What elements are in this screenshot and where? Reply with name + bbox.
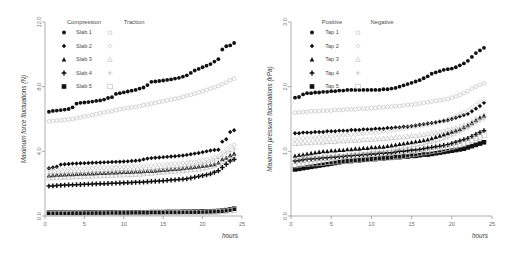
y-axis-title: Maximum force fluctuations (N): [20, 75, 28, 163]
data-point: [365, 146, 370, 150]
data-point: [321, 109, 325, 113]
legend-marker-filled: [310, 84, 315, 89]
legend-marker-open: [356, 31, 360, 35]
data-point: [188, 163, 193, 168]
data-point: [381, 136, 386, 140]
legend: PositiveNegativeTap 1Tap 2Tap 3Tap 4Tap …: [310, 19, 394, 89]
data-point: [337, 108, 341, 112]
data-point: [325, 149, 330, 153]
data-point: [381, 144, 386, 148]
data-point: [90, 161, 94, 165]
data-point: [145, 156, 149, 160]
data-point: [173, 77, 177, 81]
data-point: [325, 90, 329, 94]
data-point: [181, 95, 185, 99]
legend-label: Tap 1: [325, 29, 339, 35]
data-point: [110, 109, 114, 113]
plot-right: 0.01.02.03.00510152025Maximum pressure f…: [254, 0, 508, 254]
data-point: [309, 130, 313, 134]
data-point: [321, 90, 325, 94]
x-tick-label: 5: [83, 221, 86, 227]
data-point: [397, 135, 402, 139]
data-point: [181, 153, 185, 157]
data-point: [297, 95, 301, 99]
data-point: [86, 161, 90, 165]
data-point: [200, 173, 205, 178]
data-point: [149, 80, 153, 84]
data-point: [425, 141, 430, 146]
data-point: [365, 107, 369, 111]
data-point: [429, 136, 434, 140]
data-point: [337, 89, 341, 93]
data-point: [177, 76, 181, 80]
data-point: [126, 159, 130, 163]
data-point: [86, 100, 90, 104]
data-point: [59, 162, 63, 166]
data-point: [361, 88, 365, 92]
data-point: [309, 109, 313, 113]
data-point: [138, 87, 142, 91]
data-point: [454, 94, 458, 98]
data-point: [114, 108, 118, 112]
data-point: [397, 142, 402, 146]
data-point: [394, 86, 398, 90]
data-point: [181, 75, 185, 79]
legend-marker-filled: [310, 71, 315, 76]
data-point: [345, 88, 349, 92]
data-point: [370, 88, 374, 92]
data-point: [301, 141, 306, 145]
data-point: [406, 82, 410, 86]
x-tick-label: 20: [449, 221, 455, 227]
data-point: [385, 126, 389, 130]
x-tick-label: 5: [330, 221, 333, 227]
data-point: [470, 55, 474, 59]
data-point: [317, 140, 322, 144]
data-point: [305, 152, 310, 156]
data-point: [126, 90, 130, 94]
figure-two-panel-scatter: 0.04.08.012.00510152025Maximum force flu…: [0, 0, 508, 254]
data-point: [450, 67, 454, 71]
data-point: [55, 109, 59, 113]
plot-left: 0.04.08.012.00510152025Maximum force flu…: [0, 0, 254, 254]
data-point: [209, 62, 213, 66]
data-point: [374, 106, 378, 110]
data-point: [365, 88, 369, 92]
data-point: [361, 146, 366, 150]
data-point: [478, 83, 482, 87]
data-point: [196, 174, 201, 179]
data-point: [441, 137, 446, 142]
data-point: [118, 159, 122, 163]
x-tick-label: 20: [199, 221, 205, 227]
data-point: [149, 156, 153, 160]
data-point: [341, 108, 345, 112]
data-point: [474, 143, 479, 148]
data-point: [418, 102, 422, 106]
data-point: [422, 101, 426, 105]
data-point: [177, 154, 181, 158]
legend-marker-open: [356, 44, 360, 48]
data-point: [213, 60, 217, 64]
data-point: [106, 160, 110, 164]
data-point: [301, 110, 305, 114]
legend-label: Slab 4: [76, 70, 92, 76]
data-point: [161, 79, 165, 83]
data-point: [297, 131, 301, 135]
data-point: [161, 155, 165, 159]
data-point: [353, 107, 357, 111]
series-slab-2-compression: [47, 128, 237, 170]
x-tick-label: 15: [160, 221, 166, 227]
data-point: [474, 103, 478, 107]
data-point: [454, 65, 458, 69]
panel-force-fluctuations: 0.04.08.012.00510152025Maximum force flu…: [0, 0, 254, 254]
data-point: [329, 139, 334, 143]
y-tick-label: 8.0: [36, 83, 42, 91]
data-point: [188, 176, 193, 181]
data-point: [337, 128, 341, 132]
data-point: [208, 148, 212, 152]
x-tick-label: 10: [368, 221, 374, 227]
data-point: [232, 77, 236, 81]
data-point: [181, 164, 186, 169]
data-point: [47, 120, 51, 124]
data-point: [389, 135, 394, 139]
data-point: [177, 165, 182, 170]
